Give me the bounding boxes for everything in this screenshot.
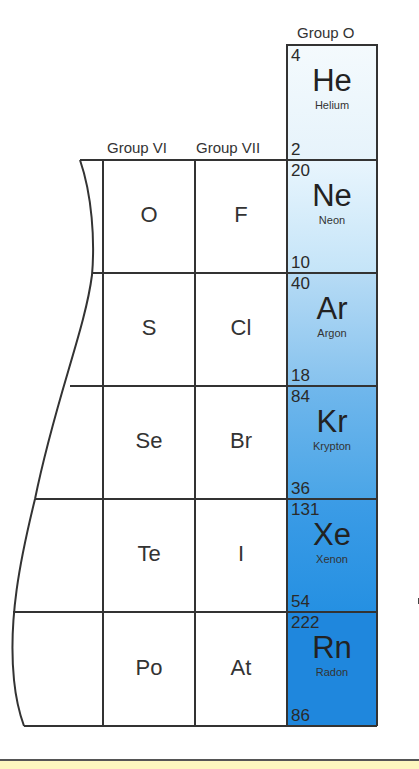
element-se: Se xyxy=(104,428,194,454)
kr-name: Krypton xyxy=(289,440,375,452)
element-at: At xyxy=(196,655,286,681)
kr-mass: 84 xyxy=(291,388,310,406)
element-rn: 222 Rn Radon 86 xyxy=(289,614,375,725)
element-te: Te xyxy=(104,541,194,567)
element-i: I xyxy=(196,541,286,567)
bottom-strip xyxy=(0,759,419,769)
ar-number: 18 xyxy=(291,367,310,385)
rn-name: Radon xyxy=(289,666,375,678)
element-ar: 40 Ar Argon 18 xyxy=(289,275,375,385)
group-vi-header: Group VI xyxy=(107,139,167,156)
rn-symbol: Rn xyxy=(289,632,375,664)
ar-symbol: Ar xyxy=(289,293,375,325)
kr-number: 36 xyxy=(291,480,310,498)
element-f: F xyxy=(196,202,286,228)
element-po: Po xyxy=(104,655,194,681)
xe-symbol: Xe xyxy=(289,519,375,551)
element-br: Br xyxy=(196,428,286,454)
element-o: O xyxy=(104,202,194,228)
group-o-header: Group O xyxy=(297,24,355,41)
ne-symbol: Ne xyxy=(289,180,375,212)
element-ne: 20 Ne Neon 10 xyxy=(289,162,375,272)
he-name: Helium xyxy=(289,99,375,111)
he-number: 2 xyxy=(291,141,300,159)
element-xe: 131 Xe Xenon 54 xyxy=(289,501,375,611)
he-mass: 4 xyxy=(291,47,300,65)
group-vii-header: Group VII xyxy=(196,139,260,156)
element-he: 4 He Helium 2 xyxy=(289,47,375,159)
ar-mass: 40 xyxy=(291,275,310,293)
element-s: S xyxy=(104,315,194,341)
ne-name: Neon xyxy=(289,214,375,226)
ar-name: Argon xyxy=(289,327,375,339)
xe-number: 54 xyxy=(291,593,310,611)
ne-number: 10 xyxy=(291,254,310,272)
rn-number: 86 xyxy=(291,707,310,725)
kr-symbol: Kr xyxy=(289,406,375,438)
he-symbol: He xyxy=(289,65,375,97)
element-cl: Cl xyxy=(196,315,286,341)
element-kr: 84 Kr Krypton 36 xyxy=(289,388,375,498)
ne-mass: 20 xyxy=(291,162,310,180)
xe-name: Xenon xyxy=(289,553,375,565)
